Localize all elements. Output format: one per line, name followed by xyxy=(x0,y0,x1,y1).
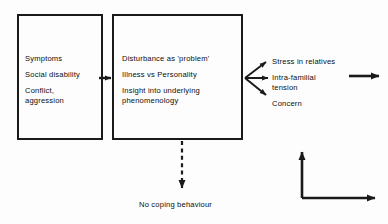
box-two-line-2: Illness vs Personality xyxy=(122,70,197,80)
box-one-line-2: Social disability xyxy=(25,70,80,80)
fan-arrow-upper xyxy=(245,62,266,78)
box-two-line-3: Insight into underlying xyxy=(122,86,200,96)
outcome-intra-familial-tension-line-2: tension xyxy=(272,83,298,93)
outcome-stress-in-relatives: Stress in relatives xyxy=(272,57,335,67)
box-two-line-4: phenomenology xyxy=(122,96,178,106)
outcome-intra-familial-tension: Intra-familial xyxy=(272,73,316,83)
box-one-line-4: aggression xyxy=(25,96,64,106)
fan-arrow-lower xyxy=(245,78,266,95)
box-one-line-1: Symptoms xyxy=(25,54,62,64)
flow-diagram: Symptoms Social disability Conflict, agg… xyxy=(0,0,388,224)
box-two-line-1: Disturbance as 'problem' xyxy=(122,54,209,64)
outcome-concern: Concern xyxy=(272,99,302,109)
no-coping-behaviour-label: No coping behaviour xyxy=(139,200,212,209)
box-one-line-3: Conflict, xyxy=(25,86,54,96)
